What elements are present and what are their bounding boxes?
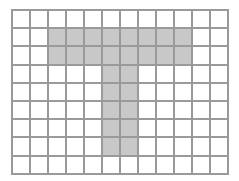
grid-cell bbox=[139, 66, 157, 84]
t-shape-grid bbox=[11, 9, 229, 175]
grid-cell bbox=[67, 157, 85, 175]
grid-cell bbox=[193, 29, 211, 47]
grid-cell bbox=[193, 102, 211, 120]
grid-cell bbox=[49, 138, 67, 156]
grid-cell-shaded bbox=[103, 120, 121, 138]
grid-cell bbox=[193, 157, 211, 175]
grid-cell bbox=[175, 66, 193, 84]
grid-cell bbox=[193, 120, 211, 138]
grid-cell bbox=[121, 157, 139, 175]
grid-cell bbox=[193, 11, 211, 29]
grid-cell-shaded bbox=[67, 29, 85, 47]
grid-cell bbox=[139, 11, 157, 29]
grid-cell bbox=[211, 11, 229, 29]
grid-cell bbox=[13, 102, 31, 120]
grid-cell bbox=[85, 84, 103, 102]
grid-cell bbox=[157, 66, 175, 84]
grid-cell bbox=[211, 29, 229, 47]
grid-cell bbox=[211, 84, 229, 102]
grid-cell bbox=[157, 11, 175, 29]
grid-cell bbox=[85, 66, 103, 84]
grid-cell bbox=[49, 66, 67, 84]
grid-cell bbox=[67, 102, 85, 120]
grid-cell-shaded bbox=[139, 29, 157, 47]
grid-cell-shaded bbox=[121, 84, 139, 102]
grid-cell bbox=[211, 102, 229, 120]
grid-cell bbox=[175, 84, 193, 102]
grid-cell-shaded bbox=[157, 29, 175, 47]
grid-cell bbox=[13, 138, 31, 156]
grid-cell bbox=[85, 102, 103, 120]
grid-cell bbox=[103, 157, 121, 175]
grid-cell bbox=[157, 120, 175, 138]
grid-cell bbox=[13, 66, 31, 84]
grid-cell-shaded bbox=[49, 29, 67, 47]
grid-cell bbox=[211, 157, 229, 175]
grid-cell bbox=[13, 120, 31, 138]
grid-cell bbox=[193, 66, 211, 84]
grid-cell-shaded bbox=[121, 120, 139, 138]
grid-cell bbox=[13, 29, 31, 47]
grid-cell bbox=[67, 84, 85, 102]
grid-cell bbox=[211, 138, 229, 156]
grid-cell bbox=[31, 11, 49, 29]
grid-cell bbox=[157, 138, 175, 156]
grid-cell bbox=[13, 47, 31, 65]
grid-cell bbox=[85, 157, 103, 175]
grid-cell bbox=[13, 84, 31, 102]
grid-cell bbox=[85, 138, 103, 156]
grid-cell-shaded bbox=[85, 47, 103, 65]
grid-cell bbox=[211, 66, 229, 84]
grid-cell-shaded bbox=[67, 47, 85, 65]
grid-cell bbox=[31, 102, 49, 120]
grid-cell-shaded bbox=[121, 66, 139, 84]
grid-cell-shaded bbox=[175, 47, 193, 65]
grid-cell bbox=[121, 11, 139, 29]
grid-cell bbox=[49, 11, 67, 29]
grid-cell bbox=[13, 157, 31, 175]
grid-cell bbox=[67, 138, 85, 156]
grid-cell bbox=[139, 102, 157, 120]
grid-cell bbox=[193, 84, 211, 102]
grid-cell bbox=[31, 47, 49, 65]
grid-cell-shaded bbox=[103, 138, 121, 156]
grid-cell bbox=[175, 157, 193, 175]
grid-cell-shaded bbox=[85, 29, 103, 47]
grid-cell bbox=[103, 11, 121, 29]
grid-cell bbox=[31, 138, 49, 156]
grid-cell bbox=[49, 157, 67, 175]
grid-cell bbox=[31, 120, 49, 138]
grid-cell bbox=[157, 157, 175, 175]
grid-cell-shaded bbox=[103, 47, 121, 65]
grid-cell bbox=[139, 138, 157, 156]
grid-cell bbox=[67, 120, 85, 138]
grid-cell bbox=[67, 11, 85, 29]
grid-cell-shaded bbox=[103, 102, 121, 120]
grid-cell-shaded bbox=[103, 29, 121, 47]
grid-cell bbox=[175, 138, 193, 156]
grid-cell bbox=[31, 157, 49, 175]
grid-cell bbox=[49, 120, 67, 138]
grid-cell bbox=[31, 84, 49, 102]
grid-cell bbox=[157, 84, 175, 102]
grid-cell bbox=[139, 84, 157, 102]
grid-cell bbox=[139, 157, 157, 175]
grid-cell bbox=[67, 66, 85, 84]
grid-cell-shaded bbox=[121, 29, 139, 47]
grid-cell bbox=[139, 120, 157, 138]
grid-cell-shaded bbox=[103, 66, 121, 84]
grid-cell bbox=[175, 120, 193, 138]
grid-cell bbox=[85, 11, 103, 29]
grid-cell bbox=[193, 138, 211, 156]
grid-cell bbox=[175, 11, 193, 29]
grid-cell-shaded bbox=[175, 29, 193, 47]
grid-cell bbox=[193, 47, 211, 65]
grid-cell bbox=[49, 84, 67, 102]
grid-cell-shaded bbox=[121, 138, 139, 156]
grid-cell-shaded bbox=[121, 102, 139, 120]
grid-cell-shaded bbox=[121, 47, 139, 65]
grid-cell-shaded bbox=[139, 47, 157, 65]
grid-cell bbox=[13, 11, 31, 29]
grid-cell bbox=[157, 102, 175, 120]
grid-cell-shaded bbox=[49, 47, 67, 65]
